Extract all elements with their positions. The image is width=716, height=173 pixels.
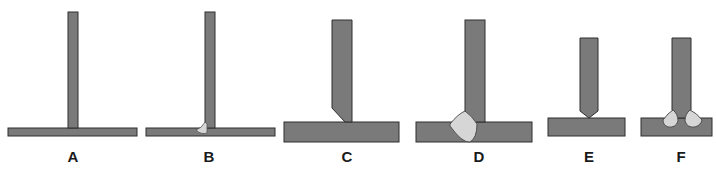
joint-e — [548, 38, 625, 136]
joint-c-beveled-member — [332, 20, 352, 122]
joint-f-vertical-member — [672, 38, 691, 118]
joint-a — [8, 12, 137, 136]
joint-b-label: B — [204, 148, 215, 165]
joint-c-base-plate — [284, 122, 399, 142]
joint-e-label: E — [584, 148, 594, 165]
joint-c — [284, 20, 399, 142]
joint-b — [146, 12, 275, 136]
joint-a-vertical-member — [68, 12, 78, 128]
joint-f-label: F — [676, 148, 685, 165]
joint-d-label: D — [474, 148, 485, 165]
joint-b-vertical-member — [205, 12, 215, 128]
joint-a-base-plate — [8, 128, 137, 136]
joint-b-base-plate — [146, 128, 275, 136]
joint-d-vertical-member — [465, 20, 485, 122]
joint-c-label: C — [342, 148, 353, 165]
weld-joint-diagram — [0, 0, 716, 173]
joint-a-label: A — [68, 148, 79, 165]
joint-e-base-plate — [548, 118, 625, 136]
joint-f — [641, 38, 712, 136]
joint-f-left-weld — [663, 110, 678, 127]
joint-f-right-weld — [685, 110, 702, 127]
joint-d — [416, 20, 532, 142]
joint-e-double-bevel-member — [580, 38, 598, 118]
